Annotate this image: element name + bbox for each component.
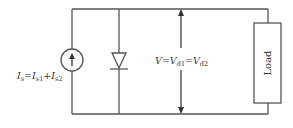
load: Load — [254, 23, 281, 103]
diode — [110, 53, 128, 69]
load-label: Load — [262, 50, 273, 76]
current-source-label: Is=Is1+Is2 — [16, 70, 63, 83]
diode-triangle-icon — [112, 53, 126, 68]
arrow-up-icon — [178, 9, 184, 16]
circuit-diagram: Load Is=Is1+Is2 V=Vd1=Vd2 — [0, 0, 293, 128]
current-source — [61, 49, 83, 71]
voltage-label: V=Vd1=Vd2 — [155, 55, 208, 68]
arrow-down-icon — [178, 107, 184, 114]
